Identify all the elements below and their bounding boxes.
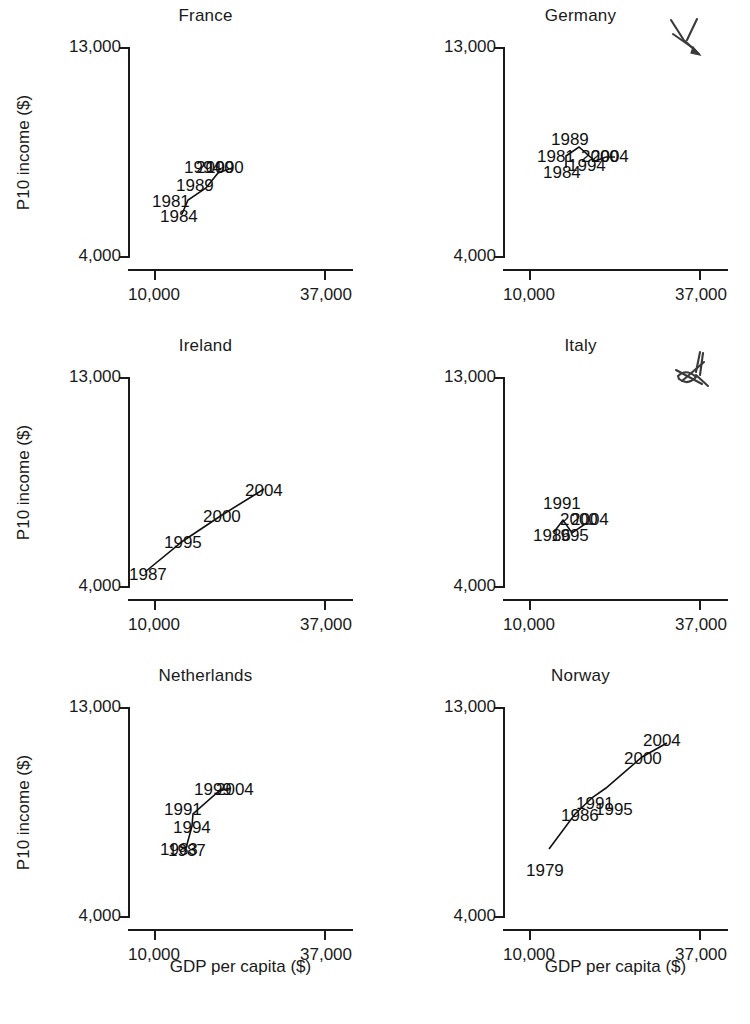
plot-area-france: 13,000 4,000 10,000 37,000 1984 1981 198… [128, 47, 350, 258]
x-tick-right [699, 601, 701, 610]
y-tick-label-bottom: 4,000 [453, 576, 496, 596]
series-line-ireland [128, 377, 350, 588]
scribble-mark-italy [670, 348, 716, 392]
x-axis-title-netherlands: GDP per capita ($) [128, 957, 353, 977]
x-tick-label-right: 37,000 [300, 285, 352, 305]
point-label: 1991 [164, 801, 202, 818]
x-axis-spine [503, 929, 728, 931]
y-tick-label-bottom: 4,000 [453, 906, 496, 926]
y-axis-title-ireland: P10 income ($) [14, 377, 36, 588]
panel-title-ireland: Ireland [0, 336, 375, 356]
plot-area-germany: 13,000 4,000 10,000 37,000 1984 1981 198… [503, 47, 725, 258]
x-axis-spine [503, 599, 728, 601]
x-tick-right [324, 931, 326, 940]
series-line-netherlands [128, 707, 350, 918]
x-tick-label-left: 10,000 [128, 615, 180, 635]
x-axis-title-norway: GDP per capita ($) [503, 957, 728, 977]
panel-title-netherlands: Netherlands [0, 666, 375, 686]
x-axis-spine [128, 599, 353, 601]
point-label: 2004 [216, 781, 254, 798]
point-label: 1979 [526, 862, 564, 879]
x-tick-left [529, 601, 531, 610]
point-label: 1995 [164, 534, 202, 551]
series-italy: 1986 1991 1995 2000 2004 [503, 377, 725, 588]
x-tick-label-left: 10,000 [503, 285, 555, 305]
y-tick-label-bottom: 4,000 [78, 246, 121, 266]
panel-grid: France P10 income ($) 13,000 4,000 10,00… [0, 0, 750, 1024]
x-tick-right [699, 271, 701, 280]
series-france: 1984 1981 1989 1994 2000 1990 [128, 47, 350, 258]
x-axis-spine [128, 269, 353, 271]
y-tick-label-bottom: 4,000 [453, 246, 496, 266]
series-norway: 1979 1986 1991 1995 2000 2004 [503, 707, 725, 918]
y-tick-label-top: 13,000 [444, 697, 496, 717]
y-tick-label-bottom: 4,000 [78, 576, 121, 596]
x-tick-label-left: 10,000 [503, 615, 555, 635]
y-tick-label-top: 13,000 [444, 367, 496, 387]
series-netherlands: 1983 1987 1994 1991 1999 2004 [128, 707, 350, 918]
x-tick-left [154, 931, 156, 940]
scribble-mark-germany [663, 14, 709, 58]
series-line-france [128, 47, 350, 258]
point-label: 1995 [551, 527, 589, 544]
panel-germany: Germany 13,000 4,000 10,000 37,000 1984 … [375, 0, 750, 330]
panel-france: France P10 income ($) 13,000 4,000 10,00… [0, 0, 375, 330]
series-line-italy [503, 377, 725, 588]
point-label: 1990 [206, 159, 244, 176]
series-germany: 1984 1981 1989 1994 2000 2004 [503, 47, 725, 258]
x-tick-right [699, 931, 701, 940]
series-ireland: 1987 1995 2000 2004 [128, 377, 350, 588]
y-tick-label-top: 13,000 [69, 37, 121, 57]
point-label: 2004 [571, 511, 609, 528]
x-tick-label-right: 37,000 [675, 285, 727, 305]
plot-area-norway: 13,000 4,000 10,000 37,000 1979 1986 199… [503, 707, 725, 918]
panel-ireland: Ireland P10 income ($) 13,000 4,000 10,0… [0, 330, 375, 660]
plot-area-netherlands: 13,000 4,000 10,000 37,000 1983 1987 199… [128, 707, 350, 918]
point-label: 1995 [595, 801, 633, 818]
x-axis-spine [128, 929, 353, 931]
x-tick-left [529, 271, 531, 280]
point-label: 2004 [245, 482, 283, 499]
point-label: 2000 [203, 508, 241, 525]
y-tick-label-bottom: 4,000 [78, 906, 121, 926]
point-label: 1981 [152, 193, 190, 210]
point-label: 2004 [643, 732, 681, 749]
x-tick-left [154, 601, 156, 610]
point-label: 1989 [176, 177, 214, 194]
point-label: 2000 [624, 750, 662, 767]
x-tick-label-left: 10,000 [128, 285, 180, 305]
x-axis-spine [503, 269, 728, 271]
plot-area-ireland: 13,000 4,000 10,000 37,000 1987 1995 200… [128, 377, 350, 588]
point-label: 2004 [591, 148, 629, 165]
y-tick-label-top: 13,000 [69, 697, 121, 717]
y-tick-label-top: 13,000 [69, 367, 121, 387]
point-label: 1994 [173, 819, 211, 836]
point-label: 1987 [168, 842, 206, 859]
y-axis-title-france: P10 income ($) [14, 47, 36, 258]
plot-area-italy: 13,000 4,000 10,000 37,000 1986 1991 199… [503, 377, 725, 588]
y-axis-title-netherlands: P10 income ($) [14, 707, 36, 918]
x-tick-right [324, 271, 326, 280]
panel-netherlands: Netherlands P10 income ($) 13,000 4,000 … [0, 660, 375, 1024]
panel-title-france: France [0, 6, 375, 26]
x-tick-right [324, 601, 326, 610]
x-tick-label-right: 37,000 [300, 615, 352, 635]
panel-norway: Norway 13,000 4,000 10,000 37,000 1979 1… [375, 660, 750, 1024]
panel-italy: Italy 13,000 4,000 10,000 37,000 1986 19… [375, 330, 750, 660]
small-multiples-figure: France P10 income ($) 13,000 4,000 10,00… [0, 0, 750, 1024]
x-tick-left [529, 931, 531, 940]
point-label: 1987 [129, 566, 167, 583]
point-label: 1989 [551, 131, 589, 148]
panel-title-norway: Norway [375, 666, 750, 686]
x-tick-label-right: 37,000 [675, 615, 727, 635]
y-tick-label-top: 13,000 [444, 37, 496, 57]
x-tick-left [154, 271, 156, 280]
